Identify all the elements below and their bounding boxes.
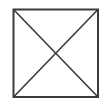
crossed-box-icon bbox=[0, 0, 111, 108]
